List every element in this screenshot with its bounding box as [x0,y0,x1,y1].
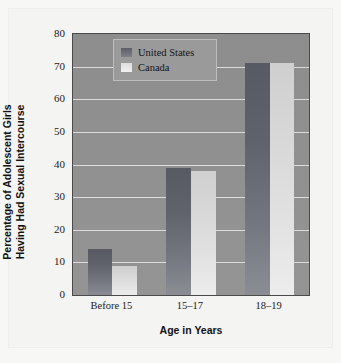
x-tick-label-18-19: 18–19 [229,300,308,311]
y-tick-label: 50 [41,125,65,137]
bar-group-18-19 [230,34,309,295]
x-tick-label-15-17: 15–17 [151,300,230,311]
y-tick-label: 10 [41,255,65,267]
x-axis-title: Age in Years [72,324,310,336]
bar-chart-figure: Percentage of Adolescent Girls Having Ha… [0,0,341,363]
bar-united-states-15-17 [166,168,191,295]
y-tick-label: 20 [41,223,65,235]
y-tick-label: 30 [41,190,65,202]
y-axis-title-line-2: Having Had Sexual Intercourse [14,104,27,259]
y-axis-title: Percentage of Adolescent Girls Having Ha… [1,104,27,259]
legend-item-united-states: United States [121,45,210,60]
bar-united-states-before-15 [88,249,113,295]
y-tick-label: 80 [41,27,65,39]
y-axis-title-line-1: Percentage of Adolescent Girls [1,104,14,259]
legend-label-canada: Canada [138,62,170,73]
bar-canada-before-15 [112,266,137,295]
y-tick-label: 0 [41,288,65,300]
y-tick-label: 70 [41,60,65,72]
bar-canada-15-17 [191,171,216,295]
legend-swatch-icon-united-states [121,48,132,57]
chart-legend: United States Canada [113,39,217,81]
bar-canada-18-19 [270,63,295,295]
legend-label-united-states: United States [138,47,194,58]
bar-united-states-18-19 [245,63,270,295]
legend-swatch-icon-canada [121,63,132,72]
y-tick-label: 40 [41,158,65,170]
legend-item-canada: Canada [121,60,210,75]
x-tick-label-before-15: Before 15 [72,300,151,311]
y-tick-label: 60 [41,92,65,104]
plot-area: United States Canada [72,33,310,296]
